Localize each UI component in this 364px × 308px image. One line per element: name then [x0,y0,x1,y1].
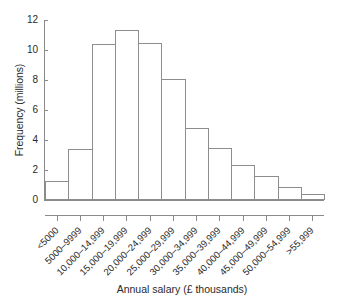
histogram-bar [208,148,232,201]
x-tick-mark [80,216,81,221]
histogram-bar [68,149,92,200]
y-tick-label: 10 [20,45,38,55]
x-tick-mark [150,216,151,221]
y-tick-label: 8 [20,75,38,85]
x-axis-baseline [45,200,324,201]
histogram-bar [231,165,255,200]
y-tick-label: 0 [20,195,38,205]
x-tick-mark [126,216,127,221]
x-tick-mark [219,216,220,221]
histogram-bar [278,187,302,201]
y-tick-label: 12 [20,15,38,25]
x-tick-mark [103,216,104,221]
histogram-bar [138,43,162,201]
x-axis-title: Annual salary (£ thousands) [0,283,364,295]
histogram-bar [45,181,69,201]
y-tick-label: 4 [20,135,38,145]
x-axis-line [45,215,324,216]
x-tick-mark [173,216,174,221]
y-tick-label: 6 [20,105,38,115]
x-tick-mark [57,216,58,221]
x-tick-mark [196,216,197,221]
x-tick-mark [266,216,267,221]
histogram-bar [115,30,139,200]
x-tick-mark [312,216,313,221]
histogram-bar [185,128,209,200]
x-tick-mark [243,216,244,221]
histogram-chart: Frequency (millions) 024681012 <50005000… [0,0,364,308]
plot-area [45,20,324,200]
histogram-bar [92,44,116,200]
histogram-bar [254,176,278,200]
x-tick-mark [289,216,290,221]
histogram-bar [161,79,185,201]
y-tick-label: 2 [20,165,38,175]
